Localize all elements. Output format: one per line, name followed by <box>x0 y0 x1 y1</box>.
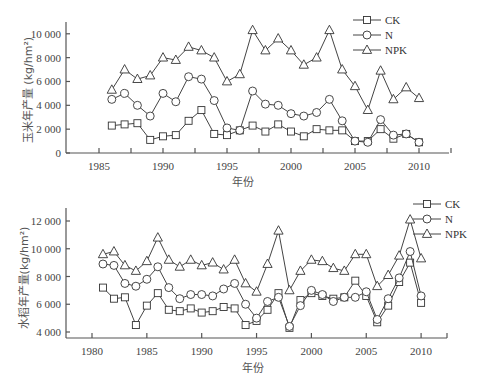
circle-marker-icon <box>165 284 173 292</box>
circle-marker-icon <box>176 295 184 303</box>
circle-marker-icon <box>415 138 423 146</box>
triangle-marker-icon <box>363 105 372 113</box>
legend-circle-marker-icon <box>363 31 371 39</box>
triangle-marker-icon <box>158 53 167 61</box>
square-marker-icon <box>313 126 320 133</box>
square-marker-icon <box>275 121 282 128</box>
square-marker-icon <box>231 305 238 312</box>
circle-marker-icon <box>338 117 346 125</box>
x-tick-label: 1995 <box>216 160 239 172</box>
triangle-marker-icon <box>286 45 295 53</box>
circle-marker-icon <box>172 98 180 106</box>
square-marker-icon <box>418 299 425 306</box>
triangle-marker-icon <box>362 249 371 257</box>
rice-yield-chart: 4 0006 0008 00010 00012 0001980198519901… <box>17 198 467 375</box>
legend-label-n: N <box>385 29 393 41</box>
circle-marker-icon <box>307 286 315 294</box>
triangle-marker-icon <box>261 45 270 53</box>
series-line-ck <box>112 110 419 142</box>
square-marker-icon <box>300 133 307 140</box>
circle-marker-icon <box>154 263 162 271</box>
square-marker-icon <box>108 122 115 129</box>
triangle-marker-icon <box>325 25 334 33</box>
circle-marker-icon <box>132 282 140 290</box>
y-tick-label: 4 000 <box>36 99 61 111</box>
circle-marker-icon <box>406 248 414 256</box>
legend-square-marker-icon <box>364 17 371 24</box>
triangle-marker-icon <box>230 255 239 263</box>
circle-marker-icon <box>340 293 348 301</box>
square-marker-icon <box>172 132 179 139</box>
square-marker-icon <box>264 306 271 313</box>
triangle-marker-icon <box>241 278 250 286</box>
circle-marker-icon <box>242 300 250 308</box>
circle-marker-icon <box>261 100 269 108</box>
circle-marker-icon <box>110 261 118 269</box>
circle-marker-icon <box>389 131 397 139</box>
figure: 02 0004 0006 0008 00010 0001985199019952… <box>0 0 486 390</box>
legend-triangle-marker-icon <box>422 229 431 237</box>
legend-circle-marker-icon <box>423 215 431 223</box>
square-marker-icon <box>154 290 161 297</box>
square-marker-icon <box>187 305 194 312</box>
circle-marker-icon <box>198 291 206 299</box>
circle-marker-icon <box>329 297 337 305</box>
x-tick-label: 1990 <box>191 345 214 357</box>
triangle-marker-icon <box>395 251 404 259</box>
circle-marker-icon <box>146 112 154 120</box>
circle-marker-icon <box>402 130 410 138</box>
y-tick-label: 6 000 <box>36 298 61 310</box>
triangle-marker-icon <box>109 247 118 255</box>
circle-marker-icon <box>209 292 217 300</box>
y-tick-label: 8 000 <box>36 271 61 283</box>
circle-marker-icon <box>417 292 425 300</box>
square-marker-icon <box>209 308 216 315</box>
square-marker-icon <box>132 322 139 329</box>
circle-marker-icon <box>264 297 272 305</box>
square-marker-icon <box>99 284 106 291</box>
circle-marker-icon <box>285 322 293 330</box>
circle-marker-icon <box>351 137 359 145</box>
circle-marker-icon <box>325 95 333 103</box>
triangle-marker-icon <box>329 263 338 271</box>
x-axis-title: 年份 <box>242 361 264 375</box>
circle-marker-icon <box>210 97 218 105</box>
triangle-marker-icon <box>402 82 411 90</box>
y-tick-label: 8 000 <box>36 52 61 64</box>
square-marker-icon <box>352 277 359 284</box>
circle-marker-icon <box>300 112 308 120</box>
triangle-marker-icon <box>175 262 184 270</box>
triangle-marker-icon <box>131 266 140 274</box>
legend-label-ck: CK <box>445 198 460 210</box>
triangle-marker-icon <box>285 285 294 293</box>
triangle-marker-icon <box>307 255 316 263</box>
circle-marker-icon <box>377 116 385 124</box>
square-marker-icon <box>220 304 227 311</box>
circle-marker-icon <box>253 314 261 322</box>
legend-label-npk: NPK <box>385 44 407 56</box>
triangle-marker-icon <box>235 69 244 77</box>
x-tick-label: 2010 <box>408 160 431 172</box>
triangle-marker-icon <box>252 287 261 295</box>
circle-marker-icon <box>143 275 151 283</box>
triangle-marker-icon <box>312 53 321 61</box>
circle-marker-icon <box>133 101 141 109</box>
square-marker-icon <box>242 322 249 329</box>
triangle-marker-icon <box>414 93 423 101</box>
legend: CKNNPK <box>353 14 407 56</box>
legend-triangle-marker-icon <box>362 45 371 53</box>
y-axis-title: 水稻年产量(kg/hm²) <box>17 227 31 330</box>
circle-marker-icon <box>223 124 231 132</box>
x-tick-label: 2000 <box>300 345 323 357</box>
circle-marker-icon <box>231 279 239 287</box>
square-marker-icon <box>110 295 117 302</box>
y-tick-label: 2 000 <box>36 123 61 135</box>
circle-marker-icon <box>287 110 295 118</box>
circle-marker-icon <box>274 293 282 301</box>
legend-label-npk: NPK <box>445 228 467 240</box>
square-marker-icon <box>288 128 295 135</box>
circle-marker-icon <box>373 316 381 324</box>
square-marker-icon <box>211 130 218 137</box>
circle-marker-icon <box>364 138 372 146</box>
x-tick-label: 2010 <box>410 345 433 357</box>
